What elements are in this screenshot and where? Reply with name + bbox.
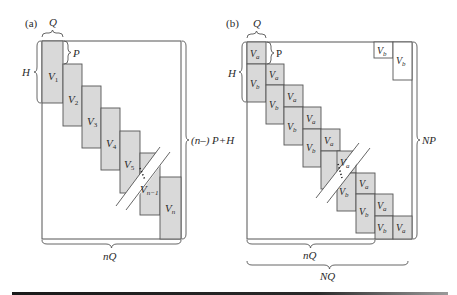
panel-b-q-label: Q xyxy=(253,17,261,29)
panel-b-h-label: H xyxy=(227,67,237,79)
panel-a-h-label: H xyxy=(21,66,31,78)
panel-b-tag: (b) xyxy=(226,17,239,30)
figure-canvas: (a) V1 V2 V3 V4 V5 Vn−1 Vn Q P H xyxy=(0,0,457,295)
panel-b-nq-label: nQ xyxy=(303,249,317,261)
panel-b: (b) xyxy=(226,17,436,282)
panel-a-tag: (a) xyxy=(25,17,38,30)
diagram-svg: (a) V1 V2 V3 V4 V5 Vn−1 Vn Q P H xyxy=(0,0,457,295)
panel-b-np-brace xyxy=(413,42,420,239)
panel-a-width-brace xyxy=(42,240,181,248)
panel-b-NQ-brace xyxy=(247,261,408,269)
panel-b-h-brace xyxy=(239,42,246,102)
panel-a-width-label: nQ xyxy=(103,250,117,262)
panel-b-np-label: NP xyxy=(421,134,436,146)
panel-a-q-label: Q xyxy=(49,16,57,28)
panel-b-p-label: P xyxy=(276,47,282,59)
panel-a-height-label: (n–) P+H xyxy=(191,134,235,147)
panel-a-h-brace xyxy=(34,41,41,103)
panel-a-p-label: P xyxy=(72,47,80,59)
panel-b-q-brace xyxy=(247,31,266,38)
panel-b-nq-brace xyxy=(247,240,375,248)
panel-b-NQ-label: NQ xyxy=(319,270,335,282)
panel-a: (a) V1 V2 V3 V4 V5 Vn−1 Vn Q P H xyxy=(21,16,235,262)
panel-a-q-brace xyxy=(42,30,63,37)
panel-a-height-brace xyxy=(182,41,189,239)
